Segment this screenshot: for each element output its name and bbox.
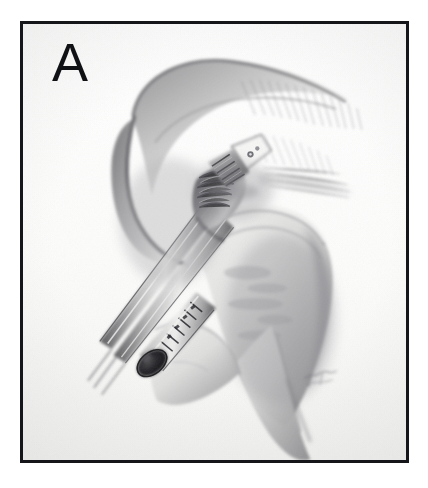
illustration-plate: A: [20, 21, 409, 463]
figure-root: A: [0, 0, 428, 488]
panel-label-a: A: [52, 35, 88, 89]
caption-zone: [20, 466, 409, 486]
